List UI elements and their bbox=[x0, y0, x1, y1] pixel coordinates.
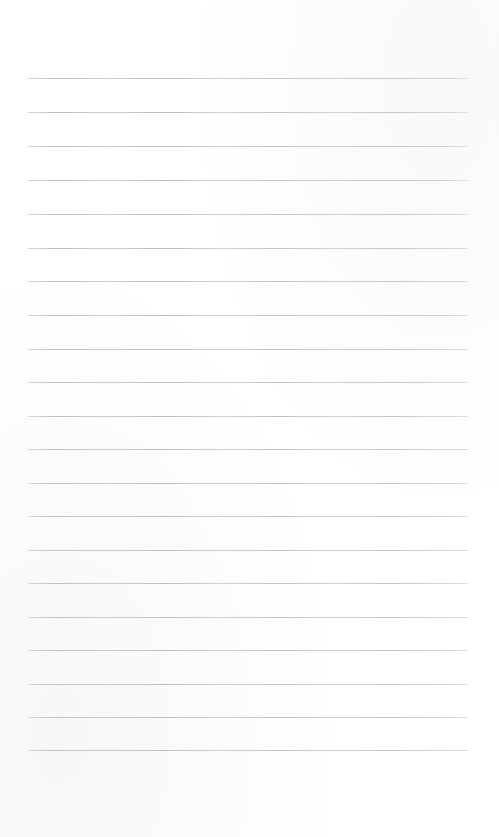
rule-line bbox=[28, 416, 468, 417]
writing-line-row[interactable] bbox=[28, 720, 468, 750]
rule-line bbox=[28, 516, 468, 517]
writing-line-row[interactable] bbox=[28, 184, 468, 214]
writing-line-row[interactable] bbox=[28, 218, 468, 248]
writing-line-row[interactable] bbox=[28, 587, 468, 617]
writing-line-row[interactable] bbox=[28, 386, 468, 416]
writing-line-row[interactable] bbox=[28, 419, 468, 449]
writing-line-row[interactable] bbox=[28, 486, 468, 516]
writing-line-row[interactable] bbox=[28, 319, 468, 349]
rule-line bbox=[28, 78, 468, 79]
ruled-writing-area[interactable] bbox=[0, 0, 499, 837]
rule-line bbox=[28, 315, 468, 316]
writing-line-row[interactable] bbox=[28, 82, 468, 112]
rule-line bbox=[28, 550, 468, 551]
rule-line bbox=[28, 684, 468, 685]
lined-paper-page bbox=[0, 0, 499, 837]
rule-line bbox=[28, 214, 468, 215]
rule-line bbox=[28, 180, 468, 181]
rule-line bbox=[28, 449, 468, 450]
writing-line-row[interactable] bbox=[28, 654, 468, 684]
writing-line-row[interactable] bbox=[28, 285, 468, 315]
rule-line bbox=[28, 281, 468, 282]
rule-line bbox=[28, 146, 468, 147]
rule-line bbox=[28, 717, 468, 718]
rule-line bbox=[28, 112, 468, 113]
bottom-margin-blank-area bbox=[0, 751, 499, 837]
writing-line-row[interactable] bbox=[28, 687, 468, 717]
rule-line bbox=[28, 349, 468, 350]
rule-line bbox=[28, 583, 468, 584]
writing-line-row[interactable] bbox=[28, 150, 468, 180]
rule-line bbox=[28, 617, 468, 618]
writing-line-row[interactable] bbox=[28, 116, 468, 146]
writing-line-row[interactable] bbox=[28, 48, 468, 78]
rule-line bbox=[28, 483, 468, 484]
writing-line-row[interactable] bbox=[28, 553, 468, 583]
writing-line-row[interactable] bbox=[28, 453, 468, 483]
writing-line-row[interactable] bbox=[28, 520, 468, 550]
rule-line bbox=[28, 382, 468, 383]
rule-line bbox=[28, 248, 468, 249]
writing-line-row[interactable] bbox=[28, 352, 468, 382]
rule-line bbox=[28, 650, 468, 651]
writing-line-row[interactable] bbox=[28, 620, 468, 650]
writing-line-row[interactable] bbox=[28, 251, 468, 281]
